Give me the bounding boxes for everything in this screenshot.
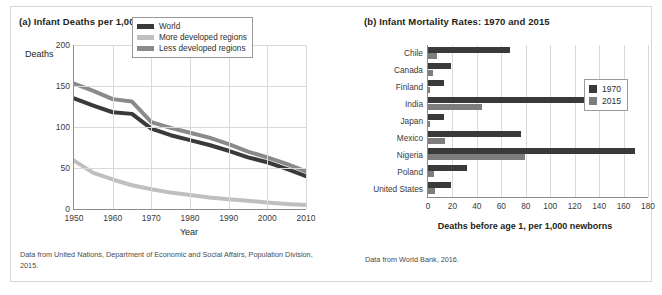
gridline-vertical [526, 45, 527, 197]
bar-1970 [428, 182, 451, 188]
axis-label-y-a: Deaths [25, 49, 54, 59]
x-axis-tick-label: 140 [592, 201, 606, 211]
gridline-vertical [550, 45, 551, 197]
bar-2015 [428, 154, 525, 160]
category-label: United States [373, 184, 423, 194]
y-axis-tick-label: 50 [61, 163, 70, 173]
gridline-vertical [452, 45, 453, 197]
bar-2015 [428, 87, 430, 93]
axis-label-x-b: Deaths before age 1, per 1,000 newborns [401, 221, 649, 231]
y-axis-tick-label: 150 [56, 81, 70, 91]
x-axis-tick-label: 1970 [142, 213, 161, 223]
legend-a: WorldMore developed regionsLess develope… [132, 17, 253, 58]
gridline-vertical [113, 45, 114, 209]
category-label: Poland [397, 167, 423, 177]
legend-item-label: World [159, 22, 180, 31]
gridline-vertical [575, 45, 576, 197]
x-axis-tick-label: 160 [617, 201, 631, 211]
legend-swatch-icon [137, 24, 154, 29]
gridline-vertical [501, 45, 502, 197]
x-axis-tick-label: 1980 [181, 213, 200, 223]
category-label: India [405, 99, 423, 109]
y-axis-tick-label: 200 [56, 40, 70, 50]
x-axis-tick-label: 1960 [103, 213, 122, 223]
gridline-vertical [151, 45, 152, 209]
panel-b-title: (b) Infant Mortality Rates: 1970 and 201… [364, 16, 550, 27]
category-label: Canada [394, 65, 423, 75]
category-label: Japan [400, 116, 423, 126]
category-label: Chile [404, 48, 423, 58]
bar-2015 [428, 70, 433, 76]
gridline-vertical [306, 45, 307, 209]
panel-a-source-note: Data from United Nations, Department of … [20, 250, 320, 271]
plot-area-b: 020406080100120140160180ChileCanadaFinla… [427, 45, 648, 198]
x-axis-tick-label: 1950 [65, 213, 84, 223]
gridline-vertical [190, 45, 191, 209]
panel-b-bar-chart: (b) Infant Mortality Rates: 1970 and 201… [351, 7, 653, 281]
bar-2015 [428, 53, 437, 59]
plot-area-a: 0501001502001950196019701980199020002010 [73, 45, 306, 210]
x-axis-tick-label: 180 [641, 201, 655, 211]
bar-2015 [428, 188, 435, 194]
legend-item-label: Less developed regions [159, 44, 246, 53]
bar-1970 [428, 47, 510, 53]
category-label: Finland [396, 82, 423, 92]
panel-b-source-note: Data from World Bank, 2016. [365, 255, 625, 266]
gridline-vertical [599, 45, 600, 197]
legend-item-label: 2015 [602, 96, 621, 106]
x-axis-tick-label: 120 [568, 201, 582, 211]
legend-b: 19702015 [584, 79, 628, 111]
x-axis-tick-label: 2000 [258, 213, 277, 223]
legend-swatch-icon [589, 97, 597, 105]
legend-item[interactable]: World [137, 21, 247, 32]
x-axis-tick-label: 20 [448, 201, 457, 211]
bar-2015 [428, 138, 445, 144]
legend-item[interactable]: 1970 [589, 83, 621, 95]
legend-item-label: More developed regions [159, 33, 247, 42]
bar-1970 [428, 148, 635, 154]
legend-swatch-icon [137, 35, 154, 40]
x-axis-tick-label: 80 [521, 201, 530, 211]
x-axis-tick-label: 100 [543, 201, 557, 211]
gridline-vertical [229, 45, 230, 209]
bar-1970 [428, 97, 602, 103]
panel-a-line-chart: (a) Infant Deaths per 1,000 Births Death… [11, 7, 351, 281]
bar-1970 [428, 63, 451, 69]
bar-2015 [428, 121, 430, 127]
legend-item[interactable]: More developed regions [137, 32, 247, 43]
x-axis-tick-label: 1990 [219, 213, 238, 223]
legend-swatch-icon [137, 46, 154, 51]
bar-2015 [428, 171, 434, 177]
x-axis-tick-label: 0 [426, 201, 431, 211]
bar-2015 [428, 104, 482, 110]
category-label: Mexico [397, 133, 423, 143]
bar-1970 [428, 80, 444, 86]
legend-swatch-icon [589, 85, 597, 93]
legend-item-label: 1970 [602, 84, 621, 94]
bar-1970 [428, 165, 467, 171]
x-axis-tick-label: 2010 [297, 213, 316, 223]
category-label: Nigeria [397, 150, 423, 160]
axis-label-x-a: Year [73, 227, 305, 237]
gridline-vertical [648, 45, 649, 197]
x-axis-tick-label: 60 [497, 201, 506, 211]
bar-1970 [428, 131, 521, 137]
gridline-vertical [477, 45, 478, 197]
legend-item[interactable]: Less developed regions [137, 43, 247, 54]
y-axis-tick-label: 100 [56, 122, 70, 132]
legend-item[interactable]: 2015 [589, 95, 621, 107]
gridline-vertical [624, 45, 625, 197]
figure-container: (a) Infant Deaths per 1,000 Births Death… [10, 6, 652, 282]
gridline-vertical [267, 45, 268, 209]
x-axis-tick-label: 40 [472, 201, 481, 211]
bar-1970 [428, 114, 444, 120]
